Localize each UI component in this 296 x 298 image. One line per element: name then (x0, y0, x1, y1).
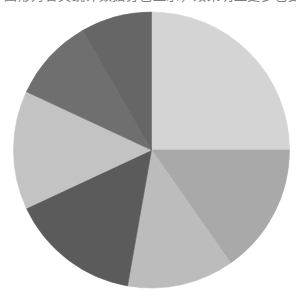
chart-area (0, 0, 296, 298)
pie-chart[interactable] (0, 0, 296, 298)
pie-slice-group (14, 12, 290, 288)
pie-chart-page: 图形对各类统计数据分色显示，效果明显更多也更加准确 (0, 0, 296, 298)
pie-slice[interactable] (152, 12, 290, 150)
